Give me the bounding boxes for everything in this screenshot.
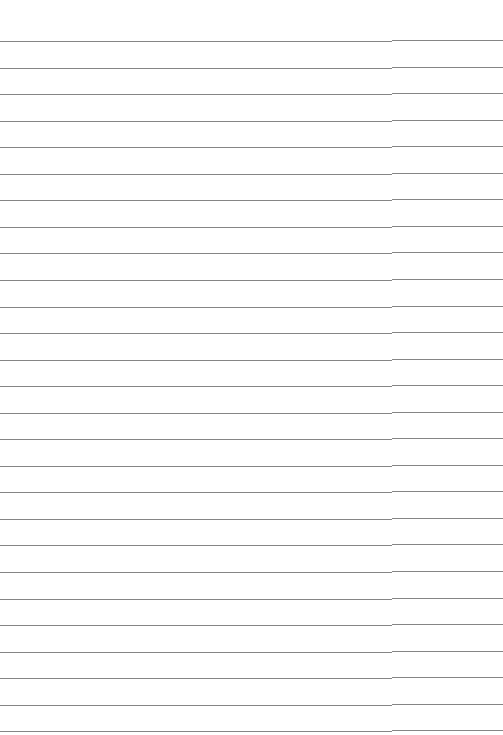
ruled-line-segment xyxy=(0,68,392,69)
ruled-line-segment xyxy=(392,332,503,333)
ruled-line-segment xyxy=(392,704,503,705)
ruled-line-segment xyxy=(392,544,503,545)
ruled-line xyxy=(0,519,503,520)
ruled-line-segment xyxy=(392,359,503,360)
ruled-line-segment xyxy=(392,199,503,200)
ruled-line-segment xyxy=(392,651,503,652)
ruled-line-segment xyxy=(0,413,392,414)
ruled-line xyxy=(0,121,503,122)
ruled-line-segment xyxy=(392,279,503,280)
ruled-line xyxy=(0,545,503,546)
ruled-line-segment xyxy=(0,200,392,201)
ruled-line-segment xyxy=(0,253,392,254)
ruled-line-segment xyxy=(0,731,392,732)
ruled-line xyxy=(0,280,503,281)
ruled-line xyxy=(0,599,503,600)
ruled-line-segment xyxy=(0,174,392,175)
ruled-line xyxy=(0,307,503,308)
ruled-line-segment xyxy=(392,571,503,572)
ruled-line xyxy=(0,227,503,228)
ruled-line xyxy=(0,439,503,440)
ruled-line-segment xyxy=(392,173,503,174)
ruled-line xyxy=(0,466,503,467)
ruled-line-segment xyxy=(0,705,392,706)
ruled-line xyxy=(0,41,503,42)
ruled-line xyxy=(0,413,503,414)
ruled-line xyxy=(0,174,503,175)
ruled-line-segment xyxy=(392,385,503,386)
ruled-line-segment xyxy=(0,147,392,148)
ruled-line-segment xyxy=(0,625,392,626)
ruled-line-segment xyxy=(392,120,503,121)
ruled-line-segment xyxy=(392,438,503,439)
ruled-line-segment xyxy=(0,678,392,679)
ruled-line-segment xyxy=(392,306,503,307)
ruled-line-segment xyxy=(0,599,392,600)
ruled-line xyxy=(0,386,503,387)
ruled-line xyxy=(0,625,503,626)
ruled-line-segment xyxy=(0,280,392,281)
ruled-line-segment xyxy=(392,40,503,41)
ruled-line-segment xyxy=(392,93,503,94)
ruled-line-segment xyxy=(0,519,392,520)
ruled-line xyxy=(0,200,503,201)
ruled-line-segment xyxy=(392,518,503,519)
ruled-line-segment xyxy=(0,41,392,42)
ruled-line-segment xyxy=(392,252,503,253)
ruled-line xyxy=(0,731,503,732)
ruled-line xyxy=(0,705,503,706)
ruled-line-segment xyxy=(0,307,392,308)
ruled-line-segment xyxy=(392,412,503,413)
ruled-line xyxy=(0,253,503,254)
lined-paper-page xyxy=(0,0,503,735)
ruled-line-segment xyxy=(0,227,392,228)
ruled-line-segment xyxy=(0,572,392,573)
ruled-line-segment xyxy=(392,730,503,731)
ruled-line-segment xyxy=(392,226,503,227)
ruled-line-segment xyxy=(0,439,392,440)
ruled-line xyxy=(0,360,503,361)
ruled-line xyxy=(0,678,503,679)
ruled-line-segment xyxy=(392,491,503,492)
ruled-line-segment xyxy=(392,598,503,599)
ruled-line xyxy=(0,147,503,148)
ruled-line-segment xyxy=(392,624,503,625)
ruled-line xyxy=(0,68,503,69)
ruled-line-segment xyxy=(0,121,392,122)
ruled-line xyxy=(0,333,503,334)
ruled-line xyxy=(0,492,503,493)
ruled-line-segment xyxy=(0,652,392,653)
ruled-line-segment xyxy=(392,67,503,68)
ruled-line-segment xyxy=(0,545,392,546)
ruled-line-segment xyxy=(392,146,503,147)
ruled-line xyxy=(0,572,503,573)
ruled-line-segment xyxy=(0,492,392,493)
ruled-line-segment xyxy=(0,360,392,361)
ruled-line xyxy=(0,652,503,653)
ruled-line-segment xyxy=(392,465,503,466)
ruled-line-segment xyxy=(0,94,392,95)
ruled-line-segment xyxy=(0,333,392,334)
ruled-line xyxy=(0,94,503,95)
ruled-line-segment xyxy=(0,466,392,467)
ruled-line-segment xyxy=(392,677,503,678)
ruled-line-segment xyxy=(0,386,392,387)
